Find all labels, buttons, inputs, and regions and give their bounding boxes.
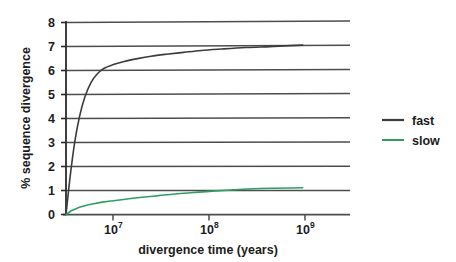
x-tick-label-1e9: 10 9	[296, 220, 315, 237]
legend-item-slow[interactable]: slow	[382, 134, 440, 148]
x-axis-ticks	[113, 215, 305, 221]
svg-text:10: 10	[104, 223, 118, 237]
gridline-y3	[66, 142, 350, 143]
legend-label-fast: fast	[412, 114, 435, 128]
y-tick-label-1: 1	[48, 184, 55, 198]
gridline-y6	[66, 69, 350, 70]
chart-canvas: 8 7 6 5 4 3 2 1 0 10 7 10 8	[0, 0, 456, 262]
y-tick-label-5: 5	[48, 88, 55, 102]
legend: fast slow	[382, 114, 440, 148]
x-tick-label-1e8: 10 8	[200, 220, 219, 237]
svg-text:8: 8	[214, 220, 219, 230]
y-axis-tick-labels: 8 7 6 5 4 3 2 1 0	[48, 16, 55, 222]
gridline-y7	[66, 45, 350, 46]
x-axis-tick-labels: 10 7 10 8 10 9	[104, 220, 315, 237]
y-tick-label-8: 8	[48, 16, 55, 30]
x-axis-title: divergence time (years)	[138, 243, 278, 257]
gridlines	[66, 21, 350, 191]
y-tick-label-6: 6	[48, 64, 55, 78]
svg-text:7: 7	[118, 220, 123, 230]
y-tick-label-7: 7	[48, 40, 55, 54]
y-tick-label-3: 3	[48, 136, 55, 150]
svg-text:10: 10	[200, 223, 214, 237]
series-line-slow	[66, 188, 303, 215]
legend-label-slow: slow	[412, 134, 440, 148]
gridline-y8	[66, 21, 350, 23]
gridline-y5	[66, 94, 350, 95]
svg-text:10: 10	[296, 223, 310, 237]
x-tick-label-1e7: 10 7	[104, 220, 123, 237]
y-tick-label-4: 4	[48, 112, 55, 126]
y-tick-label-2: 2	[48, 160, 55, 174]
y-tick-label-0: 0	[48, 208, 55, 222]
y-axis-title: % sequence divergence	[19, 47, 33, 189]
gridline-y4	[66, 118, 350, 119]
chart-figure: 8 7 6 5 4 3 2 1 0 10 7 10 8	[0, 0, 456, 262]
legend-item-fast[interactable]: fast	[382, 114, 435, 128]
svg-text:9: 9	[310, 220, 315, 230]
